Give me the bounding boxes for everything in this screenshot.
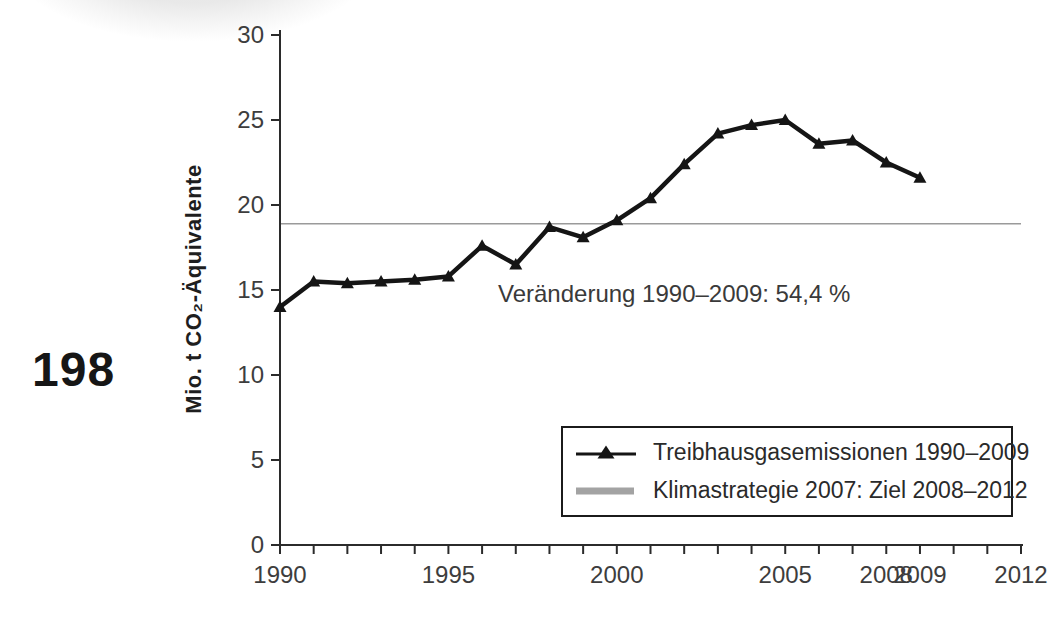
legend-label-target: Klimastrategie 2007: Ziel 2008–2012: [653, 477, 1028, 504]
scanned-book-page: 198 Mio. t CO₂-Äquivalente 0510152025301…: [0, 0, 1063, 625]
data-point-marker: [476, 239, 489, 251]
target-line-swatch-icon: [575, 481, 637, 501]
x-tick-label: 2005: [759, 561, 812, 588]
x-tick-label: 2012: [994, 561, 1047, 588]
y-tick-label: 5: [251, 446, 264, 473]
x-tick-label: 2000: [590, 561, 643, 588]
series-line-marker-icon: [575, 443, 637, 463]
change-annotation: Veränderung 1990–2009: 54,4 %: [498, 280, 850, 308]
y-tick-label: 10: [237, 361, 264, 388]
y-tick-label: 15: [237, 276, 264, 303]
legend-label-emissions: Treibhausgasemissionen 1990–2009: [653, 439, 1029, 466]
legend-item-emissions: Treibhausgasemissionen 1990–2009: [575, 439, 1011, 466]
x-tick-label: 1990: [253, 561, 306, 588]
y-tick-label: 25: [237, 106, 264, 133]
x-tick-label: 2009: [893, 561, 946, 588]
legend-item-target: Klimastrategie 2007: Ziel 2008–2012: [575, 477, 1011, 504]
y-tick-label: 0: [251, 531, 264, 558]
x-tick-label: 1995: [422, 561, 475, 588]
legend: Treibhausgasemissionen 1990–2009 Klimast…: [561, 426, 1013, 517]
emissions-line-chart: 0510152025301990199520002005200820092012: [0, 0, 1063, 625]
y-tick-label: 30: [237, 21, 264, 48]
y-tick-label: 20: [237, 191, 264, 218]
